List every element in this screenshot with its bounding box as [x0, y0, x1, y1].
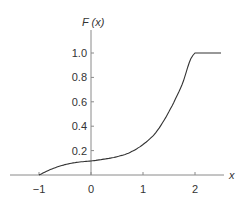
- y-tick-label: 0.4: [72, 120, 87, 132]
- x-tick-label: −1: [33, 183, 46, 195]
- y-tick-label: 0.6: [72, 96, 87, 108]
- x-tick-label: 0: [88, 183, 94, 195]
- cdf-curve: [39, 53, 221, 175]
- x-axis-title: x: [228, 169, 235, 181]
- x-tick-label: 2: [192, 183, 198, 195]
- y-tick-label: 0.8: [72, 71, 87, 83]
- y-tick-label: 0.2: [72, 145, 87, 157]
- y-tick-label: 1.0: [72, 47, 87, 59]
- cdf-chart: −1 0 1 2 1.0 0.8 0.6 0.4 0.2 F (x) x: [0, 0, 247, 201]
- x-tick-label: 1: [140, 183, 146, 195]
- y-axis-title: F (x): [82, 16, 105, 28]
